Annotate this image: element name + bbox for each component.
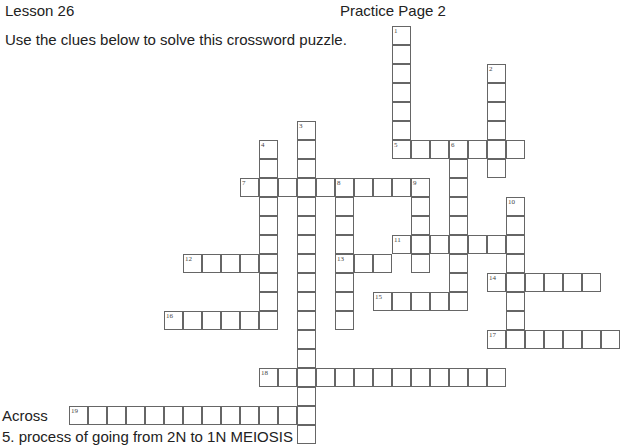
crossword-cell[interactable] (126, 406, 145, 425)
crossword-cell[interactable] (297, 292, 316, 311)
crossword-cell[interactable] (297, 140, 316, 159)
crossword-cell[interactable] (449, 197, 468, 216)
crossword-cell[interactable] (468, 235, 487, 254)
crossword-cell[interactable] (88, 406, 107, 425)
crossword-cell[interactable] (373, 254, 392, 273)
crossword-cell[interactable]: 3 (297, 121, 316, 140)
crossword-cell[interactable]: 10 (506, 197, 525, 216)
crossword-cell[interactable] (278, 368, 297, 387)
crossword-cell[interactable] (392, 121, 411, 140)
crossword-cell[interactable] (430, 368, 449, 387)
crossword-cell[interactable] (487, 83, 506, 102)
crossword-cell[interactable] (335, 216, 354, 235)
crossword-cell[interactable] (430, 235, 449, 254)
crossword-cell[interactable]: 13 (335, 254, 354, 273)
crossword-cell[interactable] (183, 406, 202, 425)
crossword-cell[interactable] (221, 254, 240, 273)
crossword-cell[interactable] (506, 235, 525, 254)
crossword-cell[interactable] (297, 235, 316, 254)
crossword-cell[interactable] (278, 406, 297, 425)
crossword-cell[interactable] (563, 273, 582, 292)
crossword-cell[interactable] (487, 368, 506, 387)
crossword-cell[interactable] (221, 406, 240, 425)
crossword-cell[interactable] (506, 254, 525, 273)
crossword-cell[interactable] (430, 292, 449, 311)
crossword-cell[interactable] (259, 178, 278, 197)
crossword-cell[interactable]: 16 (164, 311, 183, 330)
crossword-cell[interactable] (392, 102, 411, 121)
crossword-cell[interactable] (392, 45, 411, 64)
crossword-cell[interactable]: 15 (373, 292, 392, 311)
crossword-cell[interactable]: 7 (240, 178, 259, 197)
crossword-cell[interactable] (411, 368, 430, 387)
crossword-cell[interactable] (335, 273, 354, 292)
crossword-cell[interactable] (259, 159, 278, 178)
crossword-cell[interactable] (145, 406, 164, 425)
crossword-cell[interactable] (297, 330, 316, 349)
crossword-cell[interactable] (430, 140, 449, 159)
crossword-cell[interactable] (487, 235, 506, 254)
crossword-cell[interactable]: 6 (449, 140, 468, 159)
crossword-cell[interactable] (392, 178, 411, 197)
crossword-cell[interactable] (164, 406, 183, 425)
crossword-cell[interactable] (411, 197, 430, 216)
crossword-cell[interactable] (297, 368, 316, 387)
crossword-cell[interactable] (544, 330, 563, 349)
crossword-cell[interactable] (506, 311, 525, 330)
crossword-cell[interactable] (297, 216, 316, 235)
crossword-cell[interactable] (240, 254, 259, 273)
crossword-cell[interactable] (392, 83, 411, 102)
crossword-cell[interactable] (297, 273, 316, 292)
crossword-cell[interactable] (259, 406, 278, 425)
crossword-cell[interactable] (582, 273, 601, 292)
crossword-cell[interactable] (411, 140, 430, 159)
crossword-cell[interactable] (449, 292, 468, 311)
crossword-cell[interactable] (449, 216, 468, 235)
crossword-cell[interactable] (297, 387, 316, 406)
crossword-cell[interactable] (259, 197, 278, 216)
crossword-cell[interactable] (335, 197, 354, 216)
crossword-cell[interactable] (487, 159, 506, 178)
crossword-cell[interactable] (373, 368, 392, 387)
crossword-cell[interactable] (525, 273, 544, 292)
crossword-cell[interactable] (297, 159, 316, 178)
crossword-cell[interactable] (316, 178, 335, 197)
crossword-cell[interactable] (468, 140, 487, 159)
crossword-cell[interactable] (487, 121, 506, 140)
crossword-cell[interactable] (563, 330, 582, 349)
crossword-cell[interactable]: 4 (259, 140, 278, 159)
crossword-cell[interactable] (202, 406, 221, 425)
crossword-cell[interactable] (240, 311, 259, 330)
crossword-cell[interactable] (107, 406, 126, 425)
crossword-cell[interactable] (297, 406, 316, 425)
crossword-cell[interactable] (449, 159, 468, 178)
crossword-cell[interactable] (297, 311, 316, 330)
crossword-cell[interactable] (354, 178, 373, 197)
crossword-cell[interactable] (373, 178, 392, 197)
crossword-cell[interactable] (487, 140, 506, 159)
crossword-cell[interactable] (335, 311, 354, 330)
crossword-cell[interactable] (335, 235, 354, 254)
crossword-cell[interactable] (506, 216, 525, 235)
crossword-cell[interactable] (202, 254, 221, 273)
crossword-cell[interactable] (316, 368, 335, 387)
crossword-cell[interactable] (449, 235, 468, 254)
crossword-cell[interactable] (278, 178, 297, 197)
crossword-cell[interactable] (297, 197, 316, 216)
crossword-cell[interactable]: 12 (183, 254, 202, 273)
crossword-cell[interactable] (506, 140, 525, 159)
crossword-cell[interactable] (297, 254, 316, 273)
crossword-cell[interactable] (506, 330, 525, 349)
crossword-cell[interactable] (259, 216, 278, 235)
crossword-cell[interactable]: 11 (392, 235, 411, 254)
crossword-cell[interactable]: 8 (335, 178, 354, 197)
crossword-cell[interactable]: 14 (487, 273, 506, 292)
crossword-cell[interactable] (259, 273, 278, 292)
crossword-cell[interactable]: 17 (487, 330, 506, 349)
crossword-cell[interactable] (411, 292, 430, 311)
crossword-cell[interactable] (506, 273, 525, 292)
crossword-cell[interactable] (392, 64, 411, 83)
crossword-cell[interactable] (544, 273, 563, 292)
crossword-cell[interactable] (525, 330, 544, 349)
crossword-cell[interactable] (392, 292, 411, 311)
